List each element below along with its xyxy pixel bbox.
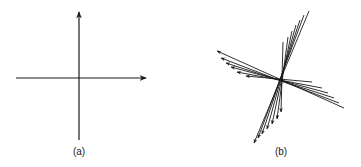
panel-a-label: (a) bbox=[73, 146, 85, 157]
panel-b-label: (b) bbox=[275, 146, 287, 157]
panel-b: (b) bbox=[217, 11, 344, 157]
diagram-canvas: (a) (b) bbox=[0, 0, 361, 167]
panel-a: (a) bbox=[16, 12, 146, 157]
